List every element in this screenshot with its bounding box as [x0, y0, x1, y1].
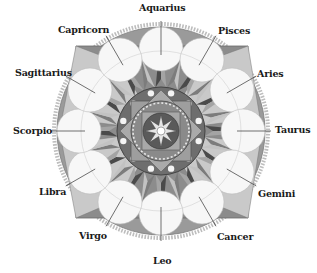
- sign-label-gemini: Gemini: [258, 189, 295, 199]
- inner-medallion: [117, 87, 205, 175]
- sign-label-cancer: Cancer: [217, 232, 253, 242]
- sign-label-capricorn: Capricorn: [58, 25, 109, 35]
- sign-label-taurus: Taurus: [275, 125, 310, 135]
- sign-label-libra: Libra: [39, 187, 66, 197]
- sign-label-scorpio: Scorpio: [13, 126, 52, 136]
- sign-label-sagittarius: Sagittarius: [15, 68, 72, 78]
- sign-label-aries: Aries: [257, 69, 283, 79]
- sign-label-virgo: Virgo: [79, 231, 107, 241]
- mandala-graphic: [0, 0, 317, 273]
- sign-label-aquarius: Aquarius: [139, 3, 185, 13]
- zodiac-mandala-diagram: AquariusPiscesAriesTaurusGeminiCancerLeo…: [0, 0, 317, 273]
- sign-label-pisces: Pisces: [218, 26, 250, 36]
- sign-label-leo: Leo: [153, 256, 171, 266]
